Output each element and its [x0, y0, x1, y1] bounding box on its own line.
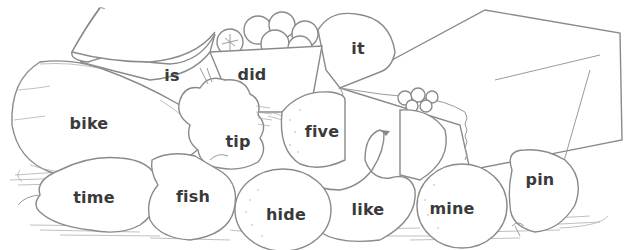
pear-pin: [509, 150, 578, 236]
word-pin: pin: [526, 170, 555, 189]
word-it: it: [351, 39, 365, 58]
word-did: did: [238, 65, 267, 84]
word-bike: bike: [70, 114, 109, 133]
word-hide: hide: [266, 205, 306, 224]
word-mine: mine: [429, 199, 474, 218]
word-is: is: [164, 66, 179, 85]
word-five: five: [305, 122, 340, 141]
word-fish: fish: [176, 187, 210, 206]
word-time: time: [73, 188, 114, 207]
word-tip: tip: [225, 132, 250, 151]
fruit-word-worksheet: is did it bike tip five time fish hide l…: [0, 0, 635, 250]
word-like: like: [352, 200, 385, 219]
